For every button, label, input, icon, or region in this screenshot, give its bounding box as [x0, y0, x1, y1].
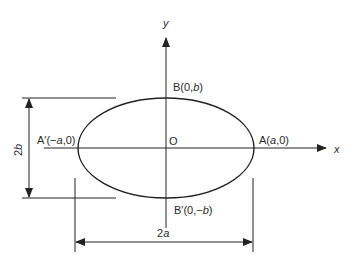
point-b-label: B(0,b)	[173, 81, 203, 93]
minor-axis-label: 2b	[12, 144, 24, 156]
point-a-label: A(a,0)	[259, 134, 289, 146]
origin-label: O	[169, 135, 178, 147]
point-b-prime-label: B′(0,−b)	[174, 204, 212, 216]
major-axis-label: 2a	[157, 227, 169, 239]
point-a-prime-label: A′(−a,0)	[37, 134, 75, 146]
ellipse-diagram: y x O B(0,b) B′(0,−b) A(a,0) A′(−a,0) 2a…	[0, 0, 353, 263]
y-axis-label: y	[162, 17, 170, 29]
x-axis-label: x	[333, 143, 340, 155]
